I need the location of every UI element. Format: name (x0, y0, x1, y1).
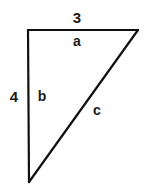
side-a-label: a (73, 34, 81, 48)
top-length-label: 3 (73, 10, 81, 25)
side-b-label: b (38, 89, 47, 103)
side-b-left (28, 29, 29, 183)
left-length-label: 4 (10, 89, 18, 104)
side-c-label: c (93, 103, 101, 117)
right-triangle-diagram (0, 0, 145, 186)
side-c-hypotenuse (29, 30, 138, 182)
